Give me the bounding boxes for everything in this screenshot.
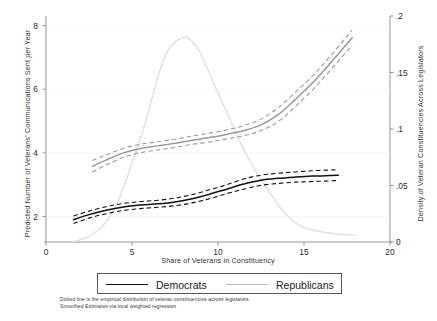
legend-label-republicans: Republicans (276, 279, 334, 291)
series-line (74, 175, 339, 220)
legend-item-democrats: Democrats (106, 274, 207, 295)
legend-item-republicans: Republicans (226, 274, 334, 295)
y-tick-label-right: .05 (396, 181, 420, 191)
democrats-curve-group (74, 170, 339, 224)
series-line (72, 37, 356, 242)
x-tick-label: 10 (203, 247, 233, 257)
ci-lower-band (74, 181, 339, 224)
x-tick-label: 5 (117, 247, 147, 257)
x-tick-label: 15 (289, 247, 319, 257)
legend-line-democrats-icon (106, 284, 148, 285)
y-tick-label-left: 2 (20, 212, 38, 222)
density-curve-group (72, 37, 356, 242)
y-tick-label-right: 0 (396, 237, 420, 247)
y-tick-label-left: 4 (20, 148, 38, 158)
y-tick-label-left: 6 (20, 84, 38, 94)
republicans-curve-group (92, 30, 352, 172)
x-tick-label: 0 (31, 247, 61, 257)
y-tick-label-right: .2 (396, 11, 420, 21)
chart-footnotes: Dotted line is the empirical distributio… (60, 296, 390, 310)
ci-upper-band (92, 30, 352, 161)
footnote-line-2: Smoothed Estimates via local weighted re… (60, 303, 390, 310)
y-tick-label-right: .1 (396, 124, 420, 134)
footnote-line-1: Dotted line is the empirical distributio… (60, 296, 390, 303)
legend-label-democrats: Democrats (156, 279, 207, 291)
y-tick-label-right: .15 (396, 68, 420, 78)
x-tick-label: 20 (375, 247, 405, 257)
legend-line-republicans-icon (226, 284, 268, 285)
chart-figure: Predicted Number of Veterans' Communicat… (0, 0, 437, 321)
y-tick-label-left: 8 (20, 21, 38, 31)
x-axis-title: Share of Veterans in Constituency (118, 256, 318, 265)
chart-legend: Democrats Republicans (97, 273, 342, 294)
